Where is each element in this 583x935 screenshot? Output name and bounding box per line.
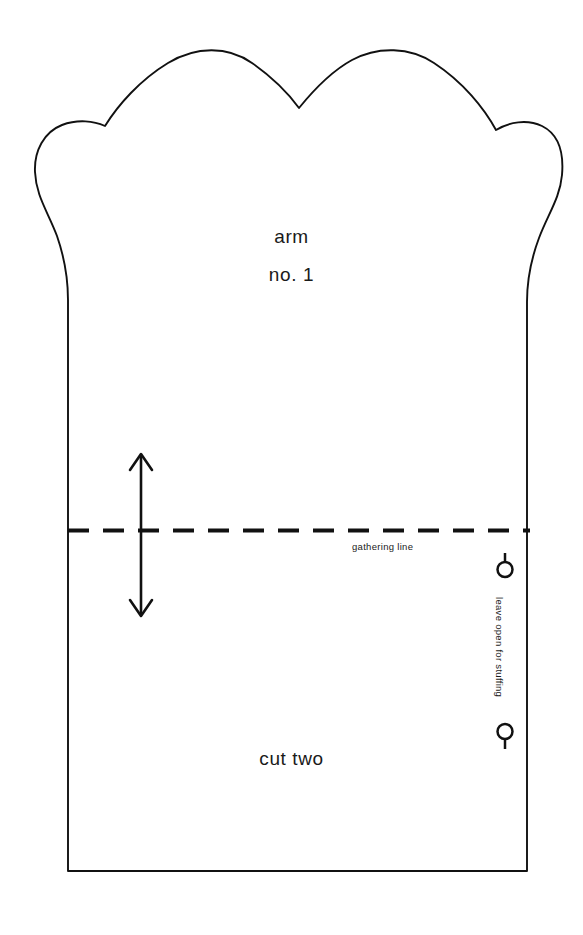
cut-instruction-label: cut two [0, 748, 583, 770]
gathering-line-label: gathering line [352, 541, 413, 552]
leave-open-for-stuffing-label: leave open for stuffing [494, 597, 505, 697]
piece-number-label: no. 1 [0, 264, 583, 286]
sewing-pattern-sheet: arm no. 1 gathering line leave open for … [0, 0, 583, 935]
piece-title-label: arm [0, 226, 583, 248]
pattern-drawing [0, 0, 583, 935]
